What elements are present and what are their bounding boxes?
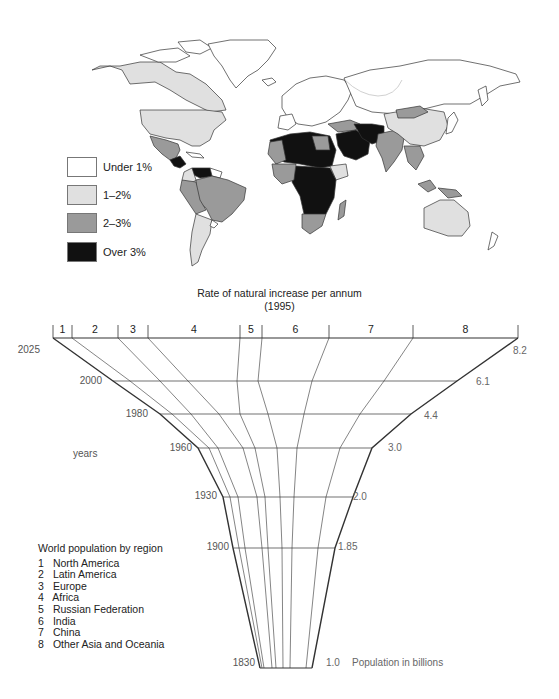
year-label-2000: 2000 — [62, 375, 102, 386]
year-label-1830: 1830 — [215, 657, 255, 668]
year-label-1980: 1980 — [108, 408, 148, 419]
segment-label-3: 3 — [118, 323, 148, 335]
segment-label-7: 7 — [329, 323, 413, 335]
value-axis-label: Population in billions — [352, 657, 443, 668]
segment-label-4: 4 — [148, 323, 240, 335]
segment-label-1: 1 — [53, 323, 72, 335]
value-label-1-0: 1.0 — [326, 657, 340, 668]
year-label-1900: 1900 — [189, 541, 229, 552]
segment-label-8: 8 — [413, 323, 518, 335]
value-label-3-0: 3.0 — [388, 442, 402, 453]
region-legend-title: World population by region — [38, 543, 164, 555]
years-axis-label: years — [73, 448, 97, 459]
year-label-1960: 1960 — [152, 442, 192, 453]
year-label-1930: 1930 — [177, 490, 217, 501]
value-label-4-4: 4.4 — [424, 410, 438, 421]
segment-label-2: 2 — [72, 323, 118, 335]
region-legend: World population by region 1 North Ameri… — [38, 543, 164, 650]
year-label-2025: 2025 — [0, 344, 40, 355]
segment-label-5: 5 — [240, 323, 262, 335]
region-item: 8 Other Asia and Oceania — [38, 639, 164, 651]
value-label-2-0: 2.0 — [353, 491, 367, 502]
value-label-1-85: 1.85 — [338, 541, 357, 552]
value-label-8-2: 8.2 — [513, 345, 527, 356]
value-label-6-1: 6.1 — [476, 376, 490, 387]
segment-label-6: 6 — [262, 323, 329, 335]
